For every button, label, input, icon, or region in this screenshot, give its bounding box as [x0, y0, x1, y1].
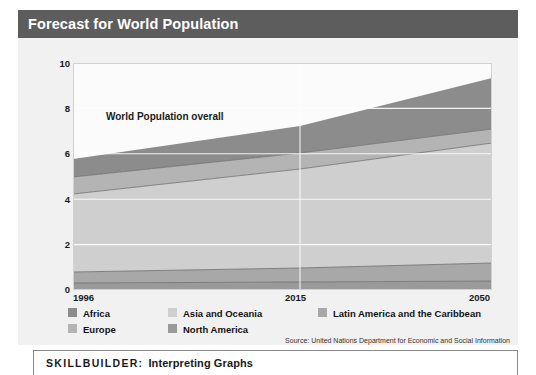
x-axis-ticks: 1996 2015 2050 — [73, 292, 492, 306]
chart-title-bar: Forecast for World Population — [18, 10, 518, 38]
legend-item-latin-america-and-the-caribbean: Latin America and the Caribbean — [318, 308, 508, 321]
legend-swatch-europe-icon — [68, 324, 77, 333]
legend-row-1: Africa Asia and Oceania Latin America an… — [68, 308, 508, 321]
legend-label-asia-and-oceania: Asia and Oceania — [183, 308, 262, 319]
skillbuilder-kicker: SKILLBUILDER: — [46, 357, 143, 369]
y-tick-2: 2 — [44, 239, 70, 250]
x-tick-1996: 1996 — [73, 292, 94, 303]
plot-area: World Population overall — [73, 63, 492, 290]
skillbuilder-title: Interpreting Graphs — [148, 357, 253, 369]
figure-page: Forecast for World Population Population… — [0, 0, 536, 375]
x-tick-2050: 2050 — [469, 292, 490, 303]
chart-legend: Africa Asia and Oceania Latin America an… — [68, 308, 508, 340]
legend-swatch-latin-america-icon — [318, 308, 327, 317]
y-tick-8: 8 — [44, 103, 70, 114]
legend-label-africa: Africa — [83, 308, 110, 319]
legend-row-2: Europe North America — [68, 324, 508, 337]
chart-figure-panel: Population (in billions) 10 8 6 4 2 0 — [18, 38, 518, 345]
y-tick-6: 6 — [44, 148, 70, 159]
legend-swatch-asia-and-oceania-icon — [168, 308, 177, 317]
y-tick-10: 10 — [44, 58, 70, 69]
y-axis-ticks: 10 8 6 4 2 0 — [40, 38, 70, 345]
skillbuilder-box: SKILLBUILDER: Interpreting Graphs — [33, 350, 518, 375]
chart-source-note: Source: United Nations Department for Ec… — [285, 337, 510, 344]
x-tick-2015: 2015 — [285, 292, 306, 303]
legend-label-north-america: North America — [183, 324, 248, 335]
stacked-area-chart — [73, 63, 492, 290]
legend-swatch-africa-icon — [68, 308, 77, 317]
legend-item-europe: Europe — [68, 324, 168, 337]
legend-swatch-north-america-icon — [168, 324, 177, 333]
y-tick-4: 4 — [44, 194, 70, 205]
y-tick-0: 0 — [44, 284, 70, 295]
legend-item-africa: Africa — [68, 308, 168, 321]
legend-label-europe: Europe — [83, 324, 116, 335]
chart-annotation-world-population: World Population overall — [106, 111, 224, 122]
legend-item-asia-and-oceania: Asia and Oceania — [168, 308, 318, 321]
chart-title: Forecast for World Population — [28, 16, 238, 32]
legend-label-latin-america-and-the-caribbean: Latin America and the Caribbean — [333, 308, 481, 319]
legend-item-north-america: North America — [168, 324, 318, 337]
